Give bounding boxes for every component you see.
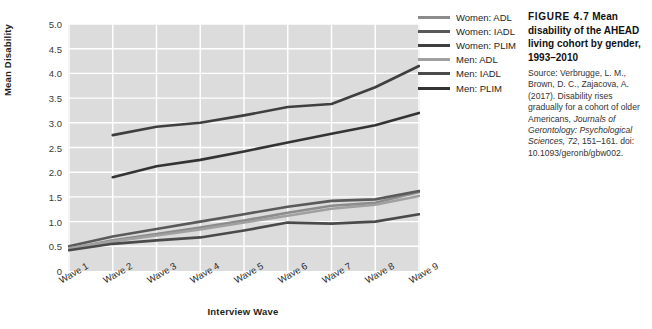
chart-plot-area: Mean Disability 00.51.01.52.02.53.03.54.…: [0, 0, 430, 329]
legend-item-label: Men: ADL: [456, 54, 498, 65]
figure-caption: FIGURE 4.7 Mean disability of the AHEAD …: [528, 10, 646, 159]
figure-container: Mean Disability 00.51.01.52.02.53.03.54.…: [0, 0, 652, 329]
legend-item-label: Women: IADL: [456, 26, 515, 37]
legend-color-swatch: [418, 58, 450, 61]
y-tick-label: 3.5: [28, 93, 62, 104]
legend-color-swatch: [418, 16, 450, 19]
caption-figure-number: FIGURE 4.7: [528, 11, 589, 22]
y-tick-label: 2.5: [28, 142, 62, 153]
y-tick-label: 1.5: [28, 191, 62, 202]
chart-svg: [68, 24, 420, 271]
chart-legend: Women: ADLWomen: IADLWomen: PLIMMen: ADL…: [418, 10, 530, 95]
legend-item-label: Men: IADL: [456, 68, 501, 79]
y-tick-label: 0.5: [28, 241, 62, 252]
legend-item[interactable]: Women: IADL: [418, 24, 530, 38]
x-axis-title: Interview Wave: [68, 306, 418, 317]
y-tick-label: 4.0: [28, 68, 62, 79]
y-axis-title: Mean Disability: [2, 0, 13, 120]
legend-color-swatch: [418, 72, 450, 75]
legend-color-swatch: [418, 44, 450, 47]
legend-item[interactable]: Women: ADL: [418, 10, 530, 24]
legend-item-label: Women: PLIM: [456, 40, 516, 51]
legend-item[interactable]: Men: ADL: [418, 53, 530, 67]
y-tick-label: 2.0: [28, 167, 62, 178]
legend-item-label: Men: PLIM: [456, 83, 502, 94]
chart-canvas: [68, 24, 420, 271]
y-tick-label: 3.0: [28, 117, 62, 128]
legend-item-label: Women: ADL: [456, 12, 512, 23]
caption-title-block: FIGURE 4.7 Mean disability of the AHEAD …: [528, 10, 646, 64]
y-tick-label: 5.0: [28, 19, 62, 30]
y-tick-label: 4.5: [28, 43, 62, 54]
legend-item[interactable]: Men: PLIM: [418, 81, 530, 95]
legend-item[interactable]: Women: PLIM: [418, 38, 530, 52]
legend-item[interactable]: Men: IADL: [418, 67, 530, 81]
legend-color-swatch: [418, 87, 450, 90]
y-tick-label: 1.0: [28, 216, 62, 227]
caption-source-block: Source: Verbrugge, L. M., Brown, D. C., …: [528, 68, 646, 159]
legend-color-swatch: [418, 30, 450, 33]
y-axis-ticks: 00.51.01.52.02.53.03.54.04.55.0: [26, 0, 62, 329]
